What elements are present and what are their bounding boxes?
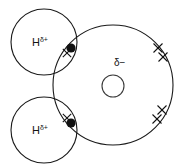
hydrogen-bottom-charge: δ+	[40, 124, 48, 131]
oxygen-charge-label: δ−	[114, 57, 126, 68]
hydrogen-top-element: H	[32, 36, 40, 48]
hydrogen-top-charge: δ+	[40, 36, 48, 43]
diagram-canvas: Hδ+ Hδ+ δ−	[0, 0, 176, 168]
lone-pair-electron-3-group	[158, 106, 167, 115]
hydrogen-bottom-label: Hδ+	[32, 124, 48, 136]
water-polarity-diagram: Hδ+ Hδ+ δ−	[0, 0, 176, 168]
shared-electron-top-dot	[66, 43, 75, 52]
shared-electron-bottom-dot	[66, 118, 75, 127]
lone-pair-electron-4-group	[153, 115, 162, 124]
hydrogen-bottom-element: H	[32, 124, 40, 136]
oxygen-nucleus-circle	[102, 75, 124, 97]
hydrogen-top-label: Hδ+	[32, 36, 48, 48]
